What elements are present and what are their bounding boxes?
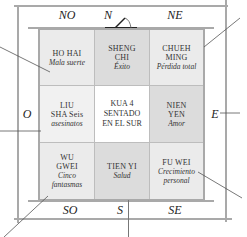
leader-line-southwest [4, 196, 48, 237]
leader-line-northwest [0, 47, 50, 72]
leader-line-northeast [204, 18, 240, 47]
leader-line-southeast [198, 172, 242, 198]
leader-lines [0, 0, 247, 237]
